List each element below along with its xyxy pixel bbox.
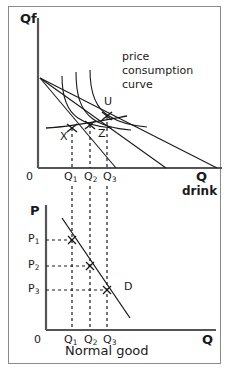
bottom-chart-origin-label: 0: [34, 334, 41, 345]
top-tick-q2-sub: 2: [93, 175, 98, 184]
top-chart-tick-q2: Q2: [84, 171, 97, 184]
top-chart-axes: [38, 18, 222, 168]
tick-p1-base: P: [28, 232, 35, 245]
pcc-annotation-line1: price: [122, 50, 149, 64]
tick-p2-sub: 2: [35, 263, 40, 272]
demand-marker-2: [86, 262, 94, 270]
pcc-annotation-line2: consumption: [122, 64, 193, 78]
point-label-x: X: [60, 131, 68, 142]
figure-root: Qf price consumption curve U X Z 0 Q1 Q2…: [0, 0, 229, 372]
top-chart-x-axis-sublabel: drink: [182, 185, 217, 197]
top-chart-tick-q3: Q3: [103, 171, 116, 184]
bottom-chart-price-guides: [46, 240, 107, 290]
bottom-chart-tick-p3: P3: [28, 283, 39, 296]
top-tick-q1-base: Q: [64, 170, 73, 183]
point-label-z: Z: [98, 128, 106, 139]
pcc-annotation-line3: curve: [122, 78, 153, 92]
demand-marker-3: [103, 286, 111, 294]
bottom-chart-y-axis-label: P: [30, 204, 40, 217]
top-chart-x-axis-label: Q: [196, 170, 207, 183]
tick-p3-base: P: [28, 282, 35, 295]
tick-p2-base: P: [28, 258, 35, 271]
tick-p1-sub: 1: [35, 237, 40, 246]
indifference-curve-label: U: [104, 96, 112, 107]
budget-line-3: [40, 78, 217, 168]
figure-caption: Normal good: [65, 344, 149, 357]
demand-point-markers: [68, 236, 111, 294]
demand-curve-label: D: [124, 281, 132, 292]
bottom-chart-tick-p1: P1: [28, 233, 39, 246]
top-tick-q1-sub: 1: [73, 175, 78, 184]
top-tick-q3-sub: 3: [112, 175, 117, 184]
top-tick-q3-base: Q: [103, 170, 112, 183]
bottom-chart-tick-p2: P2: [28, 259, 39, 272]
top-chart-tick-q1: Q1: [64, 171, 77, 184]
budget-lines: [40, 78, 217, 168]
top-chart-y-axis-label: Qf: [20, 12, 37, 25]
top-chart-origin-label: 0: [26, 171, 33, 182]
budget-line-2: [40, 78, 166, 168]
bottom-chart-x-axis-label: Q: [202, 333, 213, 346]
top-tick-q2-base: Q: [84, 170, 93, 183]
tick-p3-sub: 3: [35, 287, 40, 296]
